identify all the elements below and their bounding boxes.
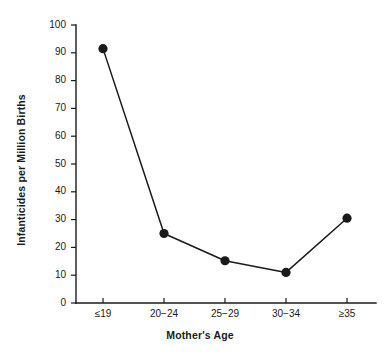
y-tick-label-0: 0 xyxy=(60,297,66,308)
y-tick-label-60: 60 xyxy=(55,130,67,141)
y-tick-label-50: 50 xyxy=(55,158,67,169)
y-tick-label-10: 10 xyxy=(55,269,67,280)
data-point xyxy=(98,44,107,53)
y-tick-label-80: 80 xyxy=(55,74,67,85)
y-axis-title: Infanticides per Million Births xyxy=(15,94,27,246)
x-tick-label-0: ≤19 xyxy=(95,308,112,319)
line-chart: Infanticides per Million Births Mother's… xyxy=(0,0,388,353)
y-tick-label-20: 20 xyxy=(55,241,67,252)
data-point xyxy=(342,214,351,223)
x-tick-label-2: 25−29 xyxy=(211,308,240,319)
data-point xyxy=(220,256,229,265)
y-tick-label-90: 90 xyxy=(55,46,67,57)
y-tick-label-100: 100 xyxy=(49,19,66,30)
y-tick-label-30: 30 xyxy=(55,213,67,224)
y-tick-label-70: 70 xyxy=(55,102,67,113)
y-tick-label-40: 40 xyxy=(55,185,67,196)
x-axis-title: Mother's Age xyxy=(166,329,234,341)
data-point xyxy=(281,268,290,277)
data-point xyxy=(159,229,168,238)
x-tick-label-4: ≥35 xyxy=(339,308,356,319)
x-tick-label-3: 30−34 xyxy=(272,308,301,319)
x-tick-label-1: 20−24 xyxy=(150,308,179,319)
chart-figure: Infanticides per Million Births Mother's… xyxy=(0,0,388,353)
